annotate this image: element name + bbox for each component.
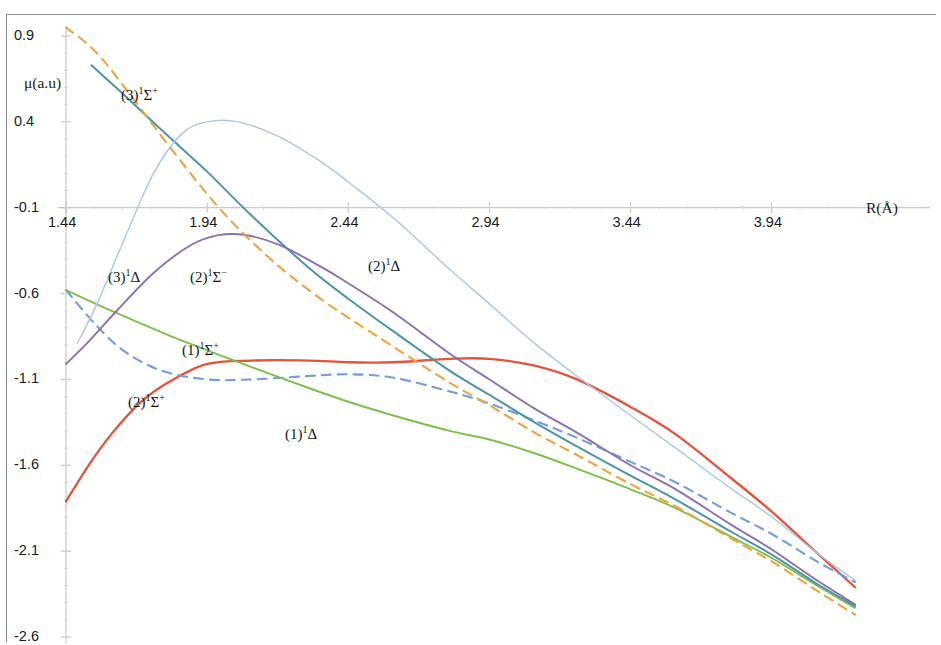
- y-tick-label: -0.6: [14, 285, 39, 301]
- y-tick-label: -1.1: [14, 370, 39, 386]
- curve-label: (1)1Σ+: [182, 340, 219, 359]
- y-tick-label: -2.6: [14, 628, 39, 644]
- chart-page: 0.90.4-0.1-0.6-1.1-1.6-2.1-2.61.441.942.…: [0, 0, 941, 645]
- curve-3-1sigma: [91, 65, 855, 606]
- curve-label: (2)1Δ: [368, 256, 400, 275]
- curve-1-1delta: [66, 290, 855, 608]
- y-tick-label: 0.9: [14, 27, 34, 43]
- x-tick-label: 1.44: [48, 214, 76, 230]
- y-tick-label: 0.4: [14, 113, 34, 129]
- curve-1-1sigma: [66, 358, 855, 587]
- x-axis-title: R(Å): [866, 199, 898, 217]
- curve-2-1sigma: [66, 290, 855, 582]
- x-tick-label: 2.44: [330, 214, 358, 230]
- x-tick-label: 3.94: [754, 214, 782, 230]
- curve-label: (2)1Σ−: [190, 267, 227, 286]
- y-tick-label: -2.1: [14, 542, 39, 558]
- x-tick-label: 1.94: [189, 214, 217, 230]
- curve-3-1delta: [66, 234, 855, 604]
- y-axis-title: μ(a.u): [24, 74, 61, 92]
- x-tick-label: 3.44: [613, 214, 641, 230]
- y-tick-label: -0.1: [14, 199, 39, 215]
- x-tick-label: 2.94: [471, 214, 499, 230]
- curves-group: [66, 27, 855, 614]
- curve-label: (2)1Σ+: [128, 392, 165, 411]
- curve-label: (3)1Σ+: [121, 85, 158, 104]
- curve-label: (3)1Δ: [108, 267, 140, 286]
- curve-label: (1)1Δ: [285, 424, 317, 443]
- y-tick-label: -1.6: [14, 456, 39, 472]
- curve-2-1sigma: [66, 27, 855, 614]
